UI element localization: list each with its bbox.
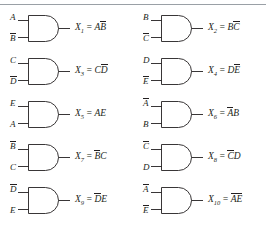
input-label-top: D [143,56,150,65]
expression-variable: E [237,194,243,205]
and-gate-symbol [133,180,266,223]
expression-variable: B [100,22,106,33]
and-gate-body [29,59,59,85]
expression-variable: C [227,151,233,162]
expression-variable: C [233,22,239,33]
and-gate-symbol [0,137,133,180]
and-gate-2: BCX2=BC [133,8,266,51]
and-gate-symbol [133,137,266,180]
input-label-bottom: C [10,163,16,172]
equals-sign: = [84,22,94,32]
expression-variable: C [100,151,106,161]
input-variable: B [143,12,149,22]
input-label-top: B [10,142,16,151]
input-label-top: A [10,13,16,22]
input-label-bottom: D [10,77,17,86]
input-label-top: D [10,185,17,194]
and-gate-7: BCX7=BC [0,137,133,180]
expression-variable: E [100,108,106,118]
and-gate-symbol [133,94,266,137]
input-variable: A [10,12,16,22]
and-gate-symbol [133,8,266,51]
and-gate-body [162,145,192,171]
logic-gate-figure: ABX1=ABBCX2=BCCDX3=CDDEX4=DEEAX5=AEABX6=… [0,0,266,228]
input-label-bottom: B [10,34,16,43]
input-variable: D [10,185,17,194]
input-label-bottom: B [143,120,149,129]
and-gate-body [162,59,192,85]
equals-sign: = [220,194,230,204]
output-expression: X6=AB [208,108,239,122]
input-label-top: B [143,13,149,22]
output-expression: X1=AB [75,22,106,36]
equals-sign: = [84,65,94,75]
input-label-bottom: C [143,34,149,43]
input-variable: A [10,119,16,129]
input-variable: A [143,99,149,108]
input-label-top: A [143,185,149,194]
expression-variable: A [227,108,233,119]
expression-variable: B [233,108,239,118]
output-expression: X3=CD [75,65,108,79]
and-gate-body [162,102,192,128]
input-label-bottom: A [10,120,16,129]
equals-sign: = [217,151,227,161]
and-gate-symbol [133,51,266,94]
input-variable: D [10,77,17,86]
and-gate-body [29,145,59,171]
input-label-bottom: D [143,163,150,172]
output-expression: X4=DE [208,65,240,79]
and-gate-8: CDX8=CD [133,137,266,180]
equals-sign: = [84,151,94,161]
and-gate-symbol [0,180,133,223]
equals-sign: = [217,108,227,118]
and-gate-10: AEX10=AE [133,180,266,223]
input-label-top: C [143,142,149,151]
equals-sign: = [217,22,227,32]
and-gate-body [162,188,192,214]
input-variable: D [143,162,150,172]
expression-variable: D [94,194,101,205]
equals-sign: = [84,194,94,204]
output-expression: X5=AE [75,108,106,122]
expression-variable: D [101,65,108,76]
input-label-bottom: E [10,206,16,215]
output-expression: X7=BC [75,151,107,165]
equals-sign: = [217,65,227,75]
expression-variable: D [234,151,241,161]
and-gate-3: CDX3=CD [0,51,133,94]
and-gate-5: EAX5=AE [0,94,133,137]
output-expression: X10=AE [208,194,242,208]
input-variable: E [143,206,149,215]
input-variable: C [10,162,16,172]
and-gate-6: ABX6=AB [133,94,266,137]
input-label-top: E [10,99,16,108]
input-variable: C [10,55,16,65]
and-gate-symbol [0,94,133,137]
input-variable: E [10,205,16,215]
and-gate-9: DEX9=DE [0,180,133,223]
input-variable: E [143,77,149,86]
input-variable: C [143,142,149,151]
expression-variable: B [94,151,100,162]
input-variable: B [10,142,16,151]
and-gate-4: DEX4=DE [133,51,266,94]
input-label-bottom: E [143,77,149,86]
output-expression: X9=DE [75,194,107,208]
and-gate-symbol [0,8,133,51]
input-variable: E [10,98,16,108]
input-label-bottom: E [143,206,149,215]
output-expression: X2=BC [208,22,240,36]
expression-variable: E [101,194,107,204]
input-variable: A [143,185,149,194]
and-gate-symbol [0,51,133,94]
and-gate-1: ABX1=AB [0,8,133,51]
input-variable: D [143,55,150,65]
output-expression: X8=CD [208,151,241,165]
equals-sign: = [84,108,94,118]
and-gate-body [162,16,192,42]
input-label-top: C [10,56,16,65]
and-gate-body [29,102,59,128]
and-gate-body [29,16,59,42]
input-label-top: A [143,99,149,108]
